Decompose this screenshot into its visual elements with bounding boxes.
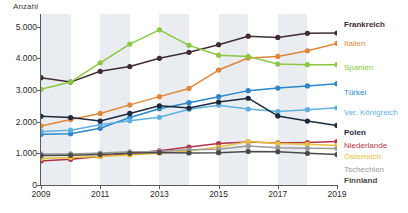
legend-item-tschechien[interactable]: Tschechien [344,166,384,174]
data-point [157,94,162,99]
series-layer [41,14,337,185]
data-point [186,105,191,110]
legend: FrankreichItalienSpanienTürkeiVer. König… [344,0,408,213]
series-line [41,33,337,82]
data-point [157,56,162,61]
data-point [186,50,191,55]
data-point [41,87,44,92]
data-point [98,118,103,123]
series-line [41,30,337,90]
x-tick-mark [278,186,279,189]
data-point [305,118,310,123]
data-point [275,109,280,114]
data-point [127,102,132,107]
x-tick-mark [159,186,160,189]
y-tick-mark [37,58,40,59]
y-tick-mark [37,185,40,186]
x-axis-line [40,185,338,186]
data-point [216,53,221,58]
data-point [127,151,132,156]
data-point [246,54,251,59]
data-point [334,105,337,110]
data-point [246,34,251,39]
data-point [41,124,44,129]
data-point [127,41,132,46]
data-point [275,54,280,59]
legend-item-italien[interactable]: Italien [344,40,365,48]
series-spanien [41,27,337,92]
x-tick-label: 2015 [199,189,239,199]
data-point [98,69,103,74]
data-point [305,151,310,156]
legend-item-ver-k-nigreich[interactable]: Ver. Königreich [344,109,398,117]
data-point [41,75,44,80]
data-point [157,27,162,32]
plot-area [41,14,337,185]
y-tick-label: 1.000 [1,148,37,158]
data-point [275,35,280,40]
data-point [216,94,221,99]
x-tick-label: 2011 [80,189,120,199]
data-point [334,123,337,128]
data-point [68,79,73,84]
data-point [305,31,310,36]
data-point [305,107,310,112]
data-point [98,152,103,157]
data-point [127,64,132,69]
data-point [216,150,221,155]
data-point [186,86,191,91]
y-tick-mark [37,90,40,91]
data-point [216,99,221,104]
data-point [334,30,337,35]
legend-item--sterreich[interactable]: Österreich [344,153,381,161]
data-point [334,81,337,86]
x-tick-label: 2009 [21,189,61,199]
series-line [41,43,337,126]
data-point [98,60,103,65]
data-point [68,153,73,158]
data-point [186,100,191,105]
y-axis-line [40,14,41,186]
y-tick-mark [37,27,40,28]
data-point [246,106,251,111]
data-point [157,103,162,108]
data-point [157,115,162,120]
data-point [127,118,132,123]
data-point [334,41,337,46]
legend-item-spanien[interactable]: Spanien [344,64,373,72]
x-tick-label: 2013 [139,189,179,199]
data-point [305,62,310,67]
data-point [246,88,251,93]
data-point [305,48,310,53]
x-tick-mark [100,186,101,189]
data-point [246,149,251,154]
data-point [246,143,251,148]
y-axis-tick-labels: 01.0002.0003.0004.0005.000 [0,0,37,213]
data-point [98,111,103,116]
data-point [157,150,162,155]
y-tick-label: 2.000 [1,117,37,127]
line-chart: Anzahl 01.0002.0003.0004.0005.000 200920… [0,0,408,213]
data-point [68,128,73,133]
data-point [334,152,337,157]
series-frankreich [41,30,337,84]
data-point [275,113,280,118]
legend-item-finnland[interactable]: Finnland [344,177,377,185]
legend-item-frankreich[interactable]: Frankreich [344,21,385,29]
data-point [186,43,191,48]
data-point [334,62,337,67]
legend-item-niederlande[interactable]: Niederlande [344,142,387,150]
x-tick-mark [337,186,338,189]
legend-item-polen[interactable]: Polen [344,129,366,137]
x-tick-mark [41,186,42,189]
data-point [246,96,251,101]
y-tick-label: 5.000 [1,22,37,32]
x-tick-mark [219,186,220,189]
data-point [68,115,73,120]
data-point [186,150,191,155]
data-point [127,111,132,116]
y-tick-label: 4.000 [1,53,37,63]
data-point [275,61,280,66]
data-point [275,86,280,91]
legend-item-t-rkei[interactable]: Türkei [344,89,366,97]
